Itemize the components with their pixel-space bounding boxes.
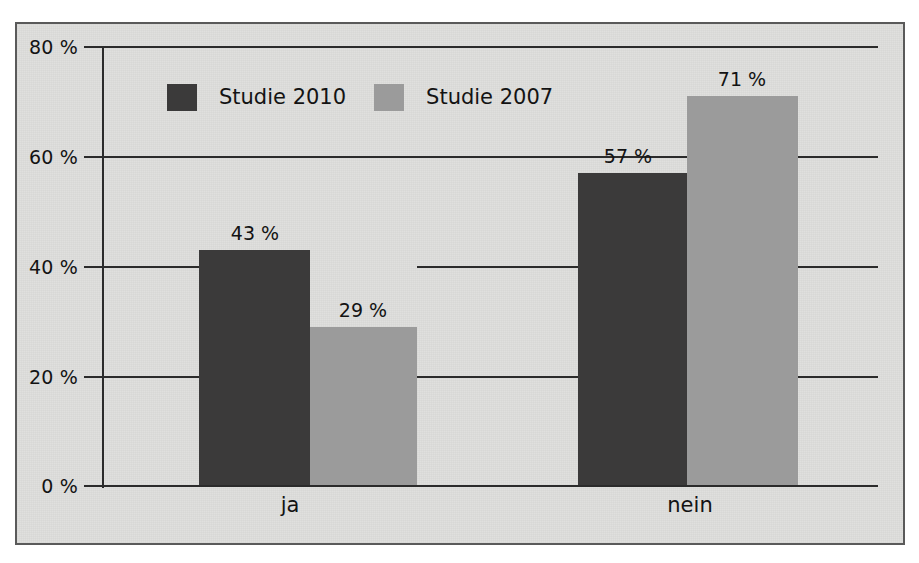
- y-tick-mark-40: [84, 266, 104, 268]
- gridline-20-seg-c: [798, 376, 878, 378]
- gridline-40-seg-d: [798, 266, 878, 268]
- category-label-ja: ja: [240, 493, 340, 517]
- gridline-20-seg-a: [102, 376, 199, 378]
- bar-ja-studie-2010[interactable]: [199, 250, 310, 486]
- y-tick-mark-80: [84, 46, 104, 48]
- legend-item-studie-2010[interactable]: Studie 2010: [167, 84, 346, 111]
- y-tick-label-40: 40 %: [8, 256, 78, 278]
- bar-nein-studie-2007[interactable]: [687, 96, 798, 486]
- y-tick-label-20: 20 %: [8, 366, 78, 388]
- y-tick-label-80: 80 %: [8, 36, 78, 58]
- gridline-20-seg-b: [417, 376, 578, 378]
- y-tick-label-60: 60 %: [8, 146, 78, 168]
- gridline-40-seg-a: [102, 266, 199, 268]
- chart-figure: 80 % 60 % 40 % 20 % 0 % 43 % 29 % 57 % 7…: [0, 0, 919, 563]
- bar-ja-studie-2007[interactable]: [310, 327, 417, 486]
- gridline-80: [102, 46, 878, 48]
- legend-label-studie-2007: Studie 2007: [426, 85, 553, 109]
- gridline-40-seg-c: [417, 266, 578, 268]
- y-tick-label-0: 0 %: [8, 475, 78, 497]
- legend: Studie 2010 Studie 2007: [167, 83, 553, 111]
- legend-swatch-icon-studie-2010: [167, 84, 197, 111]
- y-tick-mark-0: [84, 485, 104, 487]
- legend-swatch-icon-studie-2007: [374, 84, 404, 111]
- legend-item-studie-2007[interactable]: Studie 2007: [374, 84, 553, 111]
- value-label-ja-studie-2007: 29 %: [313, 299, 413, 321]
- y-tick-mark-20: [84, 376, 104, 378]
- y-axis-tick-labels: 80 % 60 % 40 % 20 % 0 %: [0, 0, 78, 563]
- legend-label-studie-2010: Studie 2010: [219, 85, 346, 109]
- y-tick-mark-60: [84, 156, 104, 158]
- category-label-nein: nein: [640, 493, 740, 517]
- gridline-0-baseline: [102, 485, 878, 487]
- value-label-ja-studie-2010: 43 %: [205, 222, 305, 244]
- bar-nein-studie-2010[interactable]: [578, 173, 689, 486]
- value-label-nein-studie-2007: 71 %: [692, 68, 792, 90]
- value-label-nein-studie-2010: 57 %: [578, 145, 678, 167]
